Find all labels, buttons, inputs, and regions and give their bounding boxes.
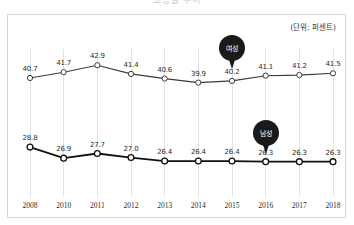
chart-title-text: 고용률 추이 <box>153 0 202 6</box>
data-value-label: 26.4 <box>191 148 206 156</box>
data-value-label: 26.3 <box>292 149 307 157</box>
data-value-label: 39.9 <box>191 70 206 78</box>
data-value-label: 40.2 <box>225 68 240 76</box>
data-point-marker <box>128 71 133 76</box>
data-value-label: 26.4 <box>225 148 240 156</box>
x-axis-label: 2015 <box>225 201 240 210</box>
x-axis-label: 2017 <box>292 201 307 210</box>
line-series-female <box>30 65 333 82</box>
x-axis-label: 2011 <box>90 201 105 210</box>
data-point-marker <box>162 158 168 164</box>
data-point-marker <box>263 73 268 78</box>
data-value-label: 41.4 <box>124 61 139 69</box>
data-point-marker <box>229 78 234 83</box>
data-point-marker <box>27 144 33 150</box>
x-axis-label: 2008 <box>23 201 38 210</box>
data-point-marker <box>95 63 100 68</box>
data-point-marker <box>229 158 235 164</box>
data-point-marker <box>296 159 302 165</box>
data-point-marker <box>61 70 66 75</box>
data-point-marker <box>297 72 302 77</box>
data-point-marker <box>330 71 335 76</box>
data-point-marker <box>195 158 201 164</box>
x-axis-label: 2012 <box>124 201 139 210</box>
x-axis-label: 2013 <box>157 201 172 210</box>
data-value-label: 28.8 <box>23 134 38 142</box>
data-value-label: 41.2 <box>292 62 307 70</box>
data-point-marker <box>61 155 67 161</box>
data-value-label: 27.0 <box>124 145 139 153</box>
data-value-label: 40.6 <box>157 66 172 74</box>
data-point-marker <box>330 159 336 165</box>
data-value-label: 40.7 <box>23 65 38 73</box>
data-value-label: 26.3 <box>326 149 341 157</box>
data-value-label: 27.7 <box>90 141 105 149</box>
x-axis-label: 2018 <box>326 201 341 210</box>
male-pin-annotation: 남성 <box>253 120 279 154</box>
series-lines-layer <box>8 15 347 219</box>
data-point-marker <box>196 80 201 85</box>
data-point-marker <box>263 159 269 165</box>
x-axis-label: 2010 <box>56 201 71 210</box>
data-value-label: 42.9 <box>90 52 105 60</box>
chart-plot-frame: (단위: 퍼센트) 40.741.742.941.440.639.940.241… <box>7 14 346 218</box>
data-point-marker <box>27 75 32 80</box>
chart-title-cropped: 고용률 추이 <box>0 0 354 13</box>
data-value-label: 41.5 <box>326 60 341 68</box>
pin-label: 남성 <box>253 120 279 146</box>
data-value-label: 26.4 <box>157 148 172 156</box>
markers-series-female <box>27 63 335 86</box>
x-axis-label: 2014 <box>191 201 206 210</box>
employment-rate-line-chart: 고용률 추이 (단위: 퍼센트) 40.741.742.941.440.639.… <box>0 0 354 225</box>
data-value-label: 41.7 <box>56 59 71 67</box>
female-pin-annotation: 여성 <box>219 35 245 69</box>
pin-label: 여성 <box>219 35 245 61</box>
data-value-label: 26.9 <box>56 145 71 153</box>
data-point-marker <box>128 155 134 161</box>
data-point-marker <box>162 76 167 81</box>
data-point-marker <box>94 151 100 157</box>
x-axis-label: 2016 <box>258 201 273 210</box>
line-series-male <box>30 147 333 162</box>
data-value-label: 41.1 <box>258 63 273 71</box>
